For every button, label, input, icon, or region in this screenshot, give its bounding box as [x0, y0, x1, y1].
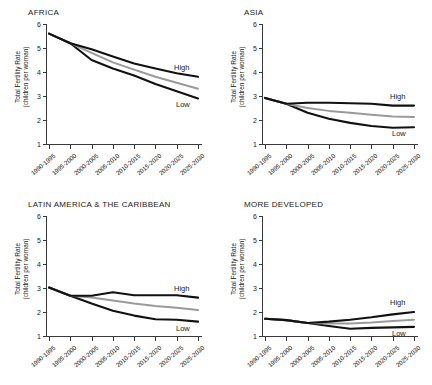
y-axis-label: Total Fertility Rate(children per woman) — [230, 22, 242, 132]
y-axis-label-line2: (children per woman) — [238, 22, 246, 132]
fertility-rate-figure: AFRICATotal Fertility Rate(children per … — [0, 0, 432, 385]
y-tick-label: 1 — [246, 141, 257, 148]
y-axis-label-line2: (children per woman) — [238, 214, 246, 324]
series-line-low — [49, 288, 198, 322]
y-axis-label-line1: Total Fertility Rate — [14, 243, 21, 295]
y-tick-label: 5 — [30, 45, 41, 52]
plot-area: 1234561990-19951995-20002000-20052005-20… — [46, 24, 201, 144]
y-tick-label: 3 — [30, 285, 41, 292]
series-label-low: Low — [392, 130, 406, 138]
y-tick-label: 2 — [246, 117, 257, 124]
y-axis-label: Total Fertility Rate(children per woman) — [230, 214, 242, 324]
plot-area: 1234561990-19951995-20002000-20052005-20… — [262, 24, 417, 144]
y-axis-label-line2: (children per woman) — [22, 22, 30, 132]
series-label-high: High — [390, 93, 405, 101]
series-lines — [46, 24, 201, 146]
series-label-high: High — [390, 299, 405, 307]
y-tick-label: 5 — [30, 237, 41, 244]
series-label-high: High — [174, 64, 189, 72]
y-tick-label: 6 — [30, 21, 41, 28]
y-axis-label-line1: Total Fertility Rate — [14, 51, 21, 103]
y-axis-label-line1: Total Fertility Rate — [230, 51, 237, 103]
series-label-low: Low — [176, 101, 190, 109]
y-axis-label: Total Fertility Rate(children per woman) — [14, 214, 26, 324]
series-line-medium — [49, 34, 198, 89]
plot-area: 1234561990-19951995-20002000-20052005-20… — [46, 216, 201, 336]
series-lines — [262, 24, 417, 146]
panel-more-developed: MORE DEVELOPEDTotal Fertility Rate(child… — [216, 192, 432, 384]
plot-area: 1234561990-19951995-20002000-20052005-20… — [262, 216, 417, 336]
y-tick-label: 5 — [246, 45, 257, 52]
series-label-low: Low — [392, 330, 406, 338]
y-tick-label: 6 — [246, 213, 257, 220]
series-label-high: High — [174, 285, 189, 293]
y-tick-label: 1 — [30, 333, 41, 340]
panel-title: MORE DEVELOPED — [244, 200, 323, 209]
panel-africa: AFRICATotal Fertility Rate(children per … — [0, 0, 216, 192]
y-tick-label: 1 — [30, 141, 41, 148]
series-lines — [262, 216, 417, 338]
y-tick-label: 2 — [30, 309, 41, 316]
y-tick-label: 4 — [30, 261, 41, 268]
series-line-medium — [265, 98, 414, 117]
y-axis-label: Total Fertility Rate(children per woman) — [14, 22, 26, 132]
series-label-low: Low — [176, 325, 190, 333]
y-tick-label: 4 — [246, 69, 257, 76]
y-tick-label: 3 — [30, 93, 41, 100]
y-tick-label: 6 — [30, 213, 41, 220]
panel-title: LATIN AMERICA & THE CARIBBEAN — [28, 200, 171, 209]
y-tick-label: 3 — [246, 93, 257, 100]
y-tick-label: 1 — [246, 333, 257, 340]
y-tick-label: 4 — [30, 69, 41, 76]
panel-title: ASIA — [244, 8, 263, 17]
y-tick-label: 5 — [246, 237, 257, 244]
y-tick-label: 6 — [246, 21, 257, 28]
y-tick-label: 2 — [246, 309, 257, 316]
y-tick-label: 4 — [246, 261, 257, 268]
panel-asia: ASIATotal Fertility Rate(children per wo… — [216, 0, 432, 192]
y-axis-label-line2: (children per woman) — [22, 214, 30, 324]
y-tick-label: 2 — [30, 117, 41, 124]
panel-title: AFRICA — [28, 8, 59, 17]
y-axis-label-line1: Total Fertility Rate — [230, 243, 237, 295]
y-tick-label: 3 — [246, 285, 257, 292]
panel-latin-america-the-caribbean: LATIN AMERICA & THE CARIBBEANTotal Ferti… — [0, 192, 216, 384]
series-lines — [46, 216, 201, 338]
